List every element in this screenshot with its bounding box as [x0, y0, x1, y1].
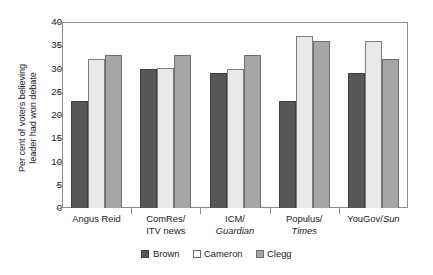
- x-axis-label-part: YouGov/: [347, 213, 383, 224]
- x-axis-label-line: ICM/: [200, 213, 269, 225]
- bar-clegg: [244, 55, 261, 208]
- y-axis-tick-mark: [56, 208, 62, 209]
- x-axis-labels: Angus ReidComRes/ITV newsICM/GuardianPop…: [62, 213, 408, 236]
- bar-brown: [279, 101, 296, 208]
- bar-clegg: [105, 55, 122, 208]
- x-axis-label: ICM/Guardian: [200, 213, 269, 236]
- legend-label: Cameron: [204, 249, 243, 259]
- bar-clegg: [313, 41, 330, 208]
- bar-group: [339, 22, 408, 208]
- x-axis-label-line: Angus Reid: [62, 213, 131, 225]
- bar-group: [270, 22, 339, 208]
- x-axis-label: Populus/Times: [270, 213, 339, 236]
- legend-swatch-icon: [141, 250, 149, 258]
- x-axis-label-line: Populus/: [270, 213, 339, 225]
- legend-item-clegg[interactable]: Clegg: [256, 249, 292, 259]
- x-axis-label-line: Times: [270, 225, 339, 237]
- x-axis-label: Angus Reid: [62, 213, 131, 236]
- legend-item-cameron[interactable]: Cameron: [193, 249, 243, 259]
- x-axis-label-part: Sun: [383, 213, 400, 224]
- bar-clegg: [174, 55, 191, 208]
- bar-cameron: [88, 59, 105, 208]
- bar-cameron: [157, 68, 174, 208]
- legend-item-brown[interactable]: Brown: [141, 249, 179, 259]
- bar-group: [200, 22, 269, 208]
- bar-brown: [210, 73, 227, 208]
- bar-cameron: [365, 41, 382, 208]
- bar-group: [131, 22, 200, 208]
- bar-brown: [348, 73, 365, 208]
- legend-label: Brown: [153, 249, 180, 259]
- bar-group: [62, 22, 131, 208]
- bar-cameron: [227, 69, 244, 209]
- bar-clegg: [382, 59, 399, 208]
- bar-cameron: [296, 36, 313, 208]
- bar-brown: [71, 101, 88, 208]
- chart-legend: BrownCameronClegg: [0, 249, 433, 259]
- x-axis-label-line: Guardian: [200, 225, 269, 237]
- legend-label: Clegg: [267, 249, 292, 259]
- bar-brown: [140, 69, 157, 209]
- legend-swatch-icon: [193, 250, 201, 258]
- x-axis-label-line: ComRes/: [131, 213, 200, 225]
- x-axis-label: YouGov/Sun: [339, 213, 408, 236]
- legend-swatch-icon: [256, 250, 264, 258]
- x-axis-label: ComRes/ITV news: [131, 213, 200, 236]
- x-axis-label-line: ITV news: [131, 225, 200, 237]
- bar-chart: Per cent of voters believing leader had …: [0, 0, 433, 275]
- bar-groups: [62, 22, 408, 208]
